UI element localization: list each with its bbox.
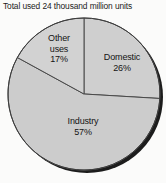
pie-slice-domestic[interactable] — [84, 18, 160, 98]
pie-chart-figure: Other uses17% Domestic26% Industry57% — [0, 13, 166, 183]
pie-chart-svg — [0, 13, 166, 183]
pie-chart-screenshot: Total used 24 thousand million units Oth… — [0, 0, 166, 183]
chart-title: Total used 24 thousand million units — [3, 1, 165, 12]
